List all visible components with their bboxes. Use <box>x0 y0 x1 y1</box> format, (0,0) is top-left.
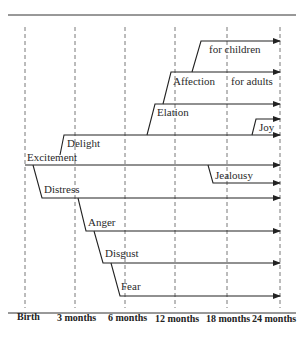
axis-label-3-months: 3 months <box>57 312 96 323</box>
time-gridlines <box>25 27 280 308</box>
label-delight: Delight <box>67 137 100 149</box>
label-fear: Fear <box>121 280 141 292</box>
label-anger: Anger <box>88 216 116 228</box>
label-disgust: Disgust <box>105 247 139 259</box>
label-elation: Elation <box>157 106 189 118</box>
axis-label-18-months: 18 months <box>206 313 250 324</box>
label-affection: Affection <box>173 75 215 87</box>
label-for-children: for children <box>209 43 261 55</box>
label-distress: Distress <box>44 183 79 195</box>
axis-label-24-months: 24 months <box>252 313 296 324</box>
axis-label-birth: Birth <box>17 311 40 322</box>
axis-label-12-months: 12 months <box>155 313 199 324</box>
label-joy: Joy <box>259 121 275 133</box>
label-excitement: Excitement <box>27 151 77 163</box>
axis-label-6-months: 6 months <box>108 312 147 323</box>
label-jealousy: Jealousy <box>215 169 253 181</box>
label-for-adults: for adults <box>231 75 273 87</box>
emotion-development-diagram: for children Affection for adults Elatio… <box>0 0 307 342</box>
